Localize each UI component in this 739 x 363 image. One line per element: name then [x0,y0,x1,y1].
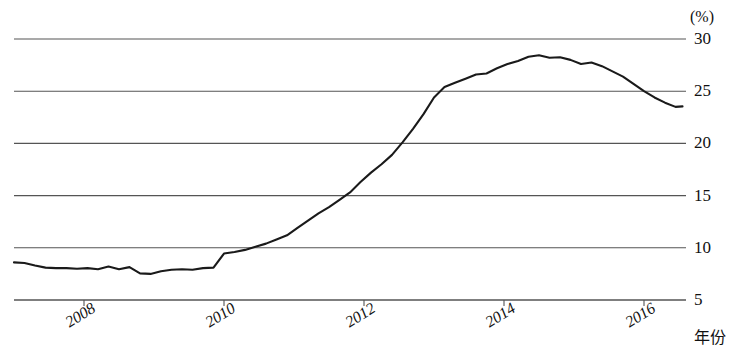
y-tick-label: 10 [694,239,711,256]
y-tick-label: 15 [694,187,711,204]
data-series-line [14,55,683,274]
gridlines-group [14,39,686,300]
x-axis-title: 年份 [694,324,726,348]
y-tick-label: 20 [694,134,711,151]
y-tick-label: 30 [694,30,711,47]
y-tick-label: 5 [694,291,703,308]
chart-container: (%) 51015202530 20082010201220142016 年份 [0,0,739,363]
y-tick-label: 25 [694,82,711,99]
